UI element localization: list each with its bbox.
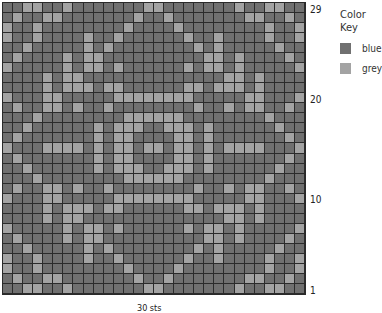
- grid-cell: [84, 204, 94, 214]
- grid-cell: [255, 174, 265, 184]
- grid-cell: [33, 33, 43, 43]
- grid-cell: [265, 43, 275, 53]
- grid-cell: [194, 204, 204, 214]
- grid-cell: [275, 284, 285, 294]
- grid-cell: [184, 234, 194, 244]
- grid-cell: [275, 264, 285, 274]
- grid-cell: [13, 133, 23, 143]
- grid-cell: [13, 254, 23, 264]
- grid-cell: [245, 224, 255, 234]
- grid-cell: [265, 23, 275, 33]
- grid-cell: [53, 254, 63, 264]
- grid-cell: [63, 143, 73, 153]
- grid-cell: [104, 254, 114, 264]
- grid-cell: [295, 33, 305, 43]
- grid-cell: [104, 83, 114, 93]
- grid-cell: [3, 194, 13, 204]
- grid-cell: [265, 264, 275, 274]
- grid-cell: [104, 53, 114, 63]
- grid-cell: [33, 53, 43, 63]
- grid-cell: [184, 123, 194, 133]
- grid-cell: [204, 254, 214, 264]
- grid-cell: [295, 194, 305, 204]
- grid-cell: [295, 13, 305, 23]
- grid-cell: [245, 154, 255, 164]
- grid-cell: [94, 214, 104, 224]
- grid-cell: [53, 264, 63, 274]
- color-key-legend: Color Key blue grey: [340, 8, 382, 83]
- grid-cell: [275, 214, 285, 224]
- grid-cell: [235, 254, 245, 264]
- grid-cell: [204, 174, 214, 184]
- grid-cell: [295, 103, 305, 113]
- grid-cell: [33, 63, 43, 73]
- grid-cell: [235, 224, 245, 234]
- grid-cell: [3, 63, 13, 73]
- grid-cell: [224, 73, 234, 83]
- grid-cell: [13, 184, 23, 194]
- grid-cell: [235, 264, 245, 274]
- grid-cell: [204, 103, 214, 113]
- grid-cell: [245, 184, 255, 194]
- grid-cell: [255, 53, 265, 63]
- grid-cell: [295, 123, 305, 133]
- grid-cell: [124, 154, 134, 164]
- grid-cell: [214, 254, 224, 264]
- grid-cell: [3, 184, 13, 194]
- grid-cell: [295, 3, 305, 13]
- grid-cell: [84, 23, 94, 33]
- grid-cell: [43, 254, 53, 264]
- grid-cell: [94, 13, 104, 23]
- grid-cell: [255, 103, 265, 113]
- grid-cell: [204, 133, 214, 143]
- grid-cell: [3, 103, 13, 113]
- grid-cell: [13, 103, 23, 113]
- grid-cell: [214, 274, 224, 284]
- grid-cell: [275, 154, 285, 164]
- grid-cell: [63, 63, 73, 73]
- grid-cell: [285, 143, 295, 153]
- grid-cell: [265, 244, 275, 254]
- grid-cell: [73, 13, 83, 23]
- grid-cell: [245, 143, 255, 153]
- grid-cell: [194, 13, 204, 23]
- grid-cell: [13, 63, 23, 73]
- grid-cell: [114, 53, 124, 63]
- grid-cell: [94, 284, 104, 294]
- grid-cell: [94, 174, 104, 184]
- grid-cell: [94, 184, 104, 194]
- grid-cell: [235, 43, 245, 53]
- grid-cell: [134, 23, 144, 33]
- grid-cell: [184, 93, 194, 103]
- grid-cell: [265, 113, 275, 123]
- grid-cell: [43, 234, 53, 244]
- grid-cell: [3, 274, 13, 284]
- grid-cell: [285, 3, 295, 13]
- grid-cell: [13, 214, 23, 224]
- grid-cell: [124, 43, 134, 53]
- grid-cell: [114, 184, 124, 194]
- grid-cell: [33, 274, 43, 284]
- grid-cell: [104, 214, 114, 224]
- grid-cell: [204, 123, 214, 133]
- grid-cell: [204, 43, 214, 53]
- grid-cell: [144, 103, 154, 113]
- grid-cell: [204, 93, 214, 103]
- grid-cell: [295, 284, 305, 294]
- grid-cell: [154, 143, 164, 153]
- grid-cell: [204, 214, 214, 224]
- grid-cell: [204, 264, 214, 274]
- grid-cell: [235, 133, 245, 143]
- grid-cell: [43, 264, 53, 274]
- grid-cell: [174, 103, 184, 113]
- grid-cell: [245, 274, 255, 284]
- grid-cell: [33, 264, 43, 274]
- grid-cell: [33, 214, 43, 224]
- grid-cell: [3, 164, 13, 174]
- grid-cell: [235, 53, 245, 63]
- grid-cell: [3, 254, 13, 264]
- grid-cell: [63, 164, 73, 174]
- grid-cell: [3, 23, 13, 33]
- grid-cell: [295, 184, 305, 194]
- grid-cell: [73, 63, 83, 73]
